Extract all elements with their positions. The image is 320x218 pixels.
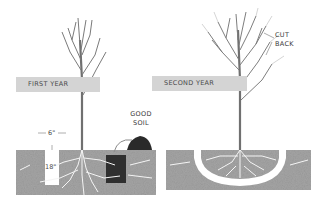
second-year-banner: SECOND YEAR — [152, 76, 247, 91]
tree-planting-diagram: FIRST YEAR SECOND YEAR GOOD SOIL CUT BAC… — [0, 0, 320, 218]
good-soil-pile — [127, 136, 152, 150]
cut-back-label: CUT BACK — [275, 31, 297, 49]
illustration — [0, 0, 320, 218]
first-year-banner: FIRST YEAR — [16, 77, 100, 92]
second-year-title: SECOND YEAR — [164, 79, 214, 87]
good-soil-block — [106, 155, 126, 183]
good-soil-label: GOOD SOIL — [128, 110, 154, 128]
first-year-title: FIRST YEAR — [28, 80, 68, 88]
hole-width-label: 6" — [48, 129, 55, 137]
first-year-panel — [16, 18, 156, 195]
hole-depth-label: 18" — [45, 163, 56, 171]
pruned-tips — [202, 8, 284, 64]
first-year-trunk — [80, 40, 82, 150]
